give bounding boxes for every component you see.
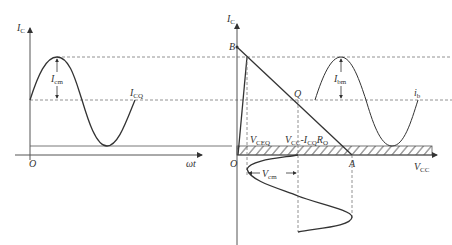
point-q-label: Q — [294, 88, 302, 99]
output-voltage-sine — [247, 155, 352, 232]
point-a-label: A — [348, 158, 356, 169]
left-y-axis-label: IC — [16, 22, 25, 35]
collector-current-sine — [30, 57, 135, 146]
vcc-minus-icq-ro-label: VCC-ICQRO — [285, 134, 328, 147]
right-origin-label: O — [230, 158, 237, 169]
right-y-axis-label: IC — [226, 13, 235, 26]
left-x-axis-label: ωt — [186, 158, 196, 169]
ibm-label: Ibm — [333, 73, 347, 86]
base-current-sine — [315, 57, 418, 146]
left-origin-label: O — [29, 158, 36, 169]
point-b-label: B — [229, 41, 235, 52]
right-plot: IC B Q A O VCC Ibm ib VCEQ VCC-ICQRO Vcm — [226, 13, 437, 245]
amplifier-waveform-diagram: IC O ωt Icm ICQ IC B Q A O VC — [0, 0, 452, 245]
saturation-curve — [238, 57, 247, 155]
right-x-axis-label: VCC — [414, 161, 430, 174]
point-b-dot — [236, 46, 239, 49]
icq-label: ICQ — [129, 87, 143, 100]
ib-label: ib — [414, 87, 421, 100]
vceq-label: VCEQ — [250, 134, 270, 147]
vcm-label: Vcm — [262, 168, 277, 181]
icm-label: Icm — [50, 73, 63, 86]
hatched-band — [237, 146, 432, 155]
